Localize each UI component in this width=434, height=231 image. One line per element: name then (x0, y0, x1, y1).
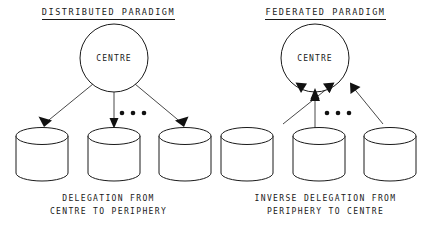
connector-node-3-to-centre (352, 86, 383, 124)
caption-distributed: DELEGATION FROM CENTRE TO PERIPHERY (0, 193, 217, 218)
caption-distributed-line-2: CENTRE TO PERIPHERY (0, 206, 217, 219)
panel-distributed-paradigm: DISTRIBUTED PARADIGM (0, 0, 217, 231)
diagram-canvas: DISTRIBUTED PARADIGM (0, 0, 434, 231)
arrowhead-node-1 (39, 117, 53, 128)
database-node-1 (221, 128, 273, 182)
connector-centre-to-node-3 (135, 84, 183, 124)
database-node-2 (88, 128, 140, 182)
database-node-3 (159, 128, 211, 182)
panel-federated-paradigm: FEDERATED PARADIGM (217, 0, 434, 231)
arrowhead-centre-from-node-3 (350, 83, 361, 95)
caption-federated: INVERSE DELEGATION FROM PERIPHERY TO CEN… (217, 193, 434, 218)
centre-node-label-federated: CENTRE (275, 54, 355, 63)
centre-node-label-distributed: CENTRE (74, 54, 154, 63)
arrowhead-node-2 (110, 118, 119, 129)
arrowhead-node-3 (175, 117, 189, 128)
database-node-1 (16, 128, 68, 182)
ellipsis-dots-distributed (120, 111, 147, 116)
connector-centre-to-node-1 (44, 84, 93, 124)
caption-federated-line-1: INVERSE DELEGATION FROM (217, 193, 434, 206)
ellipsis-dots-federated (325, 111, 352, 116)
caption-federated-line-2: PERIPHERY TO CENTRE (217, 206, 434, 219)
database-node-3 (364, 128, 416, 182)
caption-distributed-line-1: DELEGATION FROM (0, 193, 217, 206)
database-node-2 (293, 128, 345, 182)
